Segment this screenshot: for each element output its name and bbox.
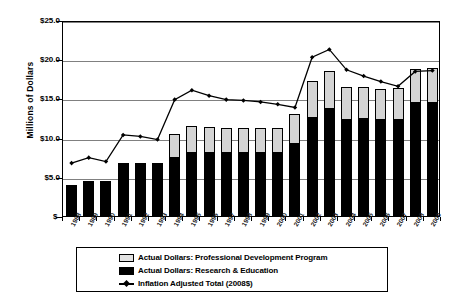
x-axis-tick-mark: [62, 217, 63, 221]
line-data-point: [379, 79, 384, 84]
line-marker-icon: [119, 280, 134, 288]
legend-item-research-education: Actual Dollars: Research & Education: [119, 264, 387, 277]
line-data-point: [310, 55, 315, 60]
line-data-point: [241, 98, 246, 103]
plot-area: [62, 21, 440, 217]
line-data-point: [293, 105, 298, 110]
legend-item-professional-development: Actual Dollars: Professional Development…: [119, 251, 387, 264]
legend-label: Actual Dollars: Research & Education: [138, 266, 278, 275]
line-data-point: [87, 155, 92, 160]
y-axis-tick-label: $10.0: [16, 135, 60, 143]
chart-container: Millions of Dollars $25.0$20.0$15.0$10.0…: [0, 0, 463, 296]
legend-label: Actual Dollars: Professional Development…: [138, 253, 327, 262]
y-axis-tick-label: $-: [16, 213, 60, 221]
line-data-point: [224, 97, 229, 102]
line-data-point: [69, 161, 74, 166]
y-axis-tick-label: $25.0: [16, 17, 60, 25]
line-data-point: [155, 137, 160, 142]
chart-legend: Actual Dollars: Professional Development…: [76, 247, 388, 292]
y-axis-tick-label: $15.0: [16, 95, 60, 103]
line-data-point: [276, 102, 281, 107]
black-swatch-icon: [119, 267, 134, 275]
legend-item-inflation-adjusted: Inflation Adjusted Total (2008$): [119, 277, 387, 290]
line-series-group: [63, 22, 439, 216]
y-axis-tick-label: $20.0: [16, 56, 60, 64]
line-data-point: [361, 74, 366, 79]
y-axis-tick-label: $5.0: [16, 174, 60, 182]
line-data-point: [138, 134, 143, 139]
line-data-point: [430, 68, 435, 73]
line-data-point: [258, 100, 263, 105]
inflation-adjusted-line: [63, 22, 441, 218]
legend-label: Inflation Adjusted Total (2008$): [138, 279, 253, 288]
line-data-point: [207, 93, 212, 98]
grey-swatch-icon: [119, 254, 134, 262]
